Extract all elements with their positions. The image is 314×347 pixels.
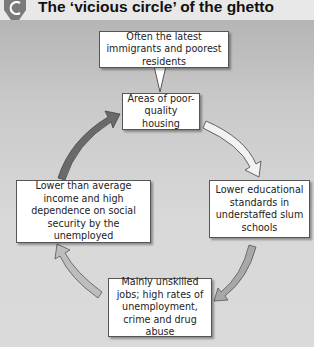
- callout-box: Often the latest immigrants and poorest …: [99, 31, 229, 68]
- arrow-income-to-housing-icon: [58, 111, 120, 180]
- callout-tail: [154, 66, 166, 92]
- node-housing-text: Areas of poor-quality housing: [126, 93, 196, 131]
- node-housing: Areas of poor-quality housing: [122, 93, 200, 130]
- node-jobs-text: Mainly unskilled jobs; high rates of une…: [112, 276, 208, 339]
- callout-text: Often the latest immigrants and poorest …: [103, 31, 225, 69]
- node-education: Lower educational standards in understaf…: [209, 180, 310, 238]
- node-jobs: Mainly unskilled jobs; high rates of une…: [108, 278, 212, 337]
- arrow-housing-to-education-icon: [203, 121, 261, 177]
- node-income-text: Lower than average income and high depen…: [20, 180, 147, 243]
- node-income: Lower than average income and high depen…: [16, 180, 151, 243]
- arrow-jobs-to-income-icon: [55, 244, 102, 298]
- arrow-education-to-jobs-icon: [214, 245, 256, 301]
- node-education-text: Lower educational standards in understaf…: [213, 184, 306, 234]
